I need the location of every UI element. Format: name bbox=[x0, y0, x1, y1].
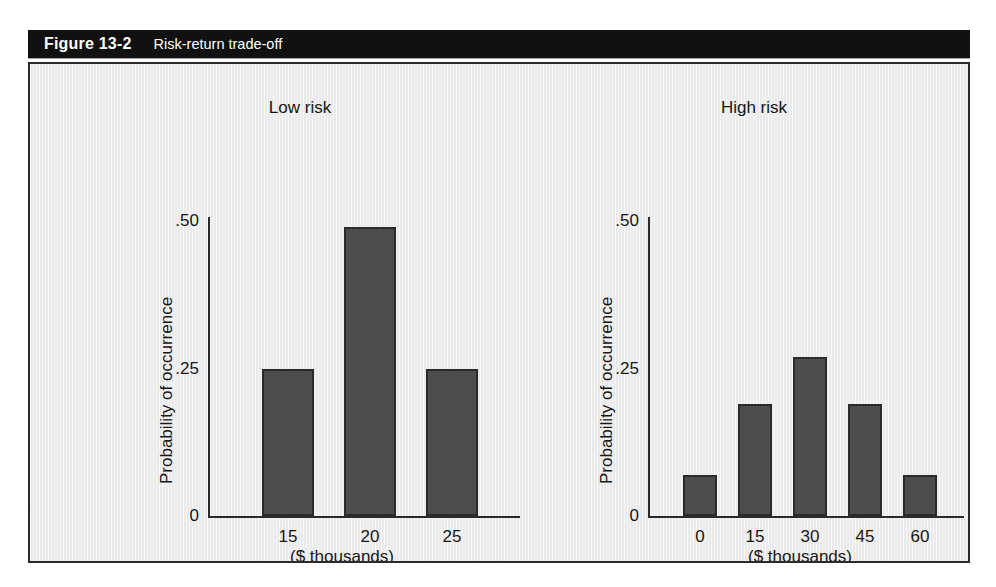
x-tick-label: 15 bbox=[279, 527, 298, 547]
chart-panel: Low risk Probability of occurrence 0.25.… bbox=[28, 62, 970, 563]
x-tick-label: 60 bbox=[911, 527, 930, 547]
bar-slot: 15 bbox=[738, 221, 772, 516]
figure-number: Figure 13-2 bbox=[44, 35, 132, 53]
bar-slot: 60 bbox=[903, 221, 937, 516]
bar-slot: 45 bbox=[848, 221, 882, 516]
bar bbox=[738, 404, 772, 516]
x-tick-label: 30 bbox=[801, 527, 820, 547]
x-tick-label: 15 bbox=[746, 527, 765, 547]
y-tick-label: .50 bbox=[615, 212, 639, 229]
x-tick-label: 25 bbox=[443, 527, 462, 547]
x-tick-label: 0 bbox=[695, 527, 704, 547]
bar bbox=[903, 475, 937, 516]
x-axis-line-low-risk bbox=[208, 516, 520, 518]
bar bbox=[793, 357, 827, 516]
y-tick-label: .25 bbox=[175, 360, 199, 377]
bar bbox=[848, 404, 882, 516]
y-tick-label: .50 bbox=[175, 212, 199, 229]
figure-caption: Risk-return trade-off bbox=[154, 36, 283, 52]
chart-title-low-risk: Low risk bbox=[30, 98, 500, 118]
bar-group-high-risk: 015304560 bbox=[650, 221, 938, 516]
bar-slot: 25 bbox=[426, 221, 478, 516]
bar bbox=[426, 369, 478, 517]
chart-low-risk: Low risk Probability of occurrence 0.25.… bbox=[30, 64, 500, 561]
bar-group-low-risk: 152025 bbox=[210, 221, 476, 516]
figure-root: Figure 13-2 Risk-return trade-off Low ri… bbox=[0, 0, 996, 587]
bar-slot: 20 bbox=[344, 221, 396, 516]
bar bbox=[683, 475, 717, 516]
x-axis-line-high-risk bbox=[648, 516, 964, 518]
plot-area-high-risk: 0.25.50 015304560 bbox=[648, 221, 938, 516]
y-tick-label: 0 bbox=[630, 507, 639, 524]
bar bbox=[344, 227, 396, 516]
y-tick-label: .25 bbox=[615, 360, 639, 377]
chart-high-risk: High risk Probability of occurrence 0.25… bbox=[500, 64, 968, 561]
chart-title-high-risk: High risk bbox=[500, 98, 968, 118]
figure-title-bar: Figure 13-2 Risk-return trade-off bbox=[28, 30, 970, 58]
x-axis-title-low-risk: ($ thousands) bbox=[290, 547, 394, 563]
plot-area-low-risk: 0.25.50 152025 bbox=[208, 221, 476, 516]
bar-slot: 15 bbox=[262, 221, 314, 516]
bar-slot: 0 bbox=[683, 221, 717, 516]
bar-slot: 30 bbox=[793, 221, 827, 516]
x-tick-label: 45 bbox=[856, 527, 875, 547]
x-tick-label: 20 bbox=[361, 527, 380, 547]
y-axis-title-low-risk: Probability of occurrence bbox=[157, 297, 177, 484]
y-axis-title-high-risk: Probability of occurrence bbox=[597, 297, 617, 484]
x-axis-title-high-risk: ($ thousands) bbox=[748, 547, 852, 563]
bar bbox=[262, 369, 314, 517]
y-tick-label: 0 bbox=[190, 507, 199, 524]
